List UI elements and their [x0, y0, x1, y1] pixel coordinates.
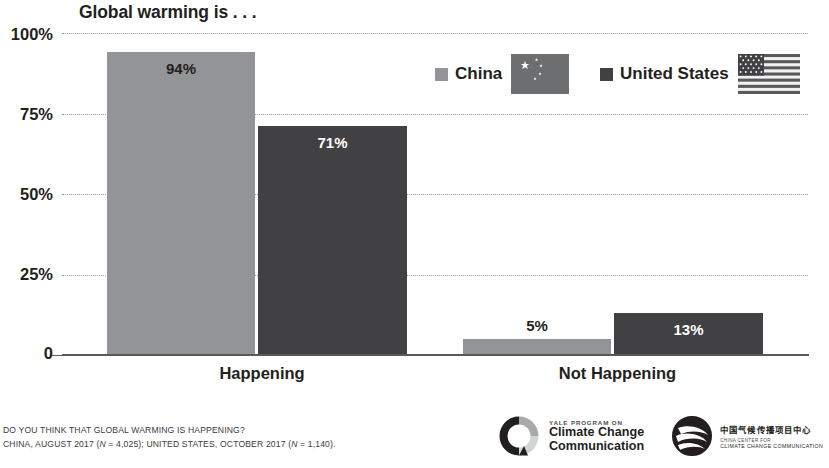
gridline-100 [62, 33, 808, 34]
china-flag-icon [511, 54, 569, 94]
legend-item-united-states[interactable]: United States [600, 53, 800, 95]
yale-program-logo: YALE PROGRAM ON Climate Change Communica… [498, 415, 644, 457]
logo-row: YALE PROGRAM ON Climate Change Communica… [498, 412, 823, 460]
footer-source-pre: CHINA, AUGUST 2017 ( [3, 439, 99, 449]
legend-item-china[interactable]: China [435, 53, 569, 95]
legend-swatch-us-icon [600, 68, 613, 81]
y-tick-label-50: 50% [0, 185, 53, 204]
footer-question: DO YOU THINK THAT GLOBAL WARMING IS HAPP… [3, 424, 336, 438]
y-tick-label-25: 25% [0, 265, 53, 284]
y-tick-label-75: 75% [0, 105, 53, 124]
y-tick-label-100: 100% [0, 25, 53, 44]
legend-label-united-states: United States [620, 64, 729, 84]
category-label-not-happening: Not Happening [475, 364, 760, 383]
y-tick-dash-0 [52, 355, 62, 356]
yale-logo-line1: Climate Change [549, 426, 644, 439]
bar-us-not-happening[interactable]: 13% [614, 313, 763, 355]
yale-c-logo-icon [498, 415, 540, 457]
bar-us-happening[interactable]: 71% [258, 126, 407, 355]
china4c-swirl-logo-icon [672, 416, 712, 456]
chart-title: Global warming is . . . [79, 2, 257, 23]
legend-label-china: China [455, 64, 502, 84]
chart-figure: Global warming is . . . 100% 75% 50% 25%… [0, 0, 829, 468]
bar-value-china-happening: 94% [107, 60, 255, 77]
y-tick-label-0: 0 [0, 344, 53, 363]
footer-source-mid: = 4,025); UNITED STATES, OCTOBER 2017 ( [106, 439, 291, 449]
bar-value-us-not-happening: 13% [614, 321, 763, 338]
china-4c-logo: 中国气候传播项目中心 CHINA CENTER FOR CLIMATE CHAN… [672, 416, 823, 456]
us-flag-icon [738, 54, 800, 94]
x-axis-line [62, 354, 809, 356]
china-4c-logo-text: 中国气候传播项目中心 CHINA CENTER FOR CLIMATE CHAN… [720, 423, 823, 449]
china-4c-logo-sub2: CLIMATE CHANGE COMMUNICATION [720, 443, 823, 449]
category-label-happening: Happening [122, 364, 402, 383]
footer-note: DO YOU THINK THAT GLOBAL WARMING IS HAPP… [3, 424, 336, 451]
legend-swatch-china-icon [435, 68, 448, 81]
yale-logo-line2: Communication [549, 440, 644, 453]
bar-china-not-happening[interactable]: 5% [463, 339, 611, 355]
bar-china-happening[interactable]: 94% [107, 52, 255, 355]
footer-source: CHINA, AUGUST 2017 (N = 4,025); UNITED S… [3, 438, 336, 452]
bar-value-china-not-happening: 5% [463, 317, 611, 334]
bar-value-us-happening: 71% [258, 134, 407, 151]
china-4c-logo-chinese: 中国气候传播项目中心 [720, 423, 823, 435]
yale-logo-text: YALE PROGRAM ON Climate Change Communica… [549, 419, 644, 452]
footer-source-post: = 1,140). [298, 439, 336, 449]
